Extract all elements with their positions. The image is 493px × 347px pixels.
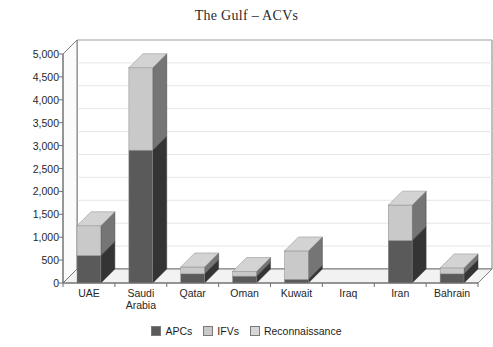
- y-axis-tick-label: 3,500: [0, 117, 59, 129]
- y-axis-tick-label: 2,500: [0, 163, 59, 175]
- x-axis-category-label: Qatar: [167, 288, 219, 300]
- bar-segment: [285, 279, 309, 283]
- bar-segment: [388, 205, 412, 240]
- y-axis-tick-label: 1,000: [0, 231, 59, 243]
- bar-segment: [233, 276, 257, 283]
- bar-group: [77, 212, 115, 283]
- y-axis-tick-label: 2,000: [0, 185, 59, 197]
- bar-segment: [285, 251, 309, 279]
- bar-segment: [440, 274, 464, 283]
- x-axis-category-label: Iran: [374, 288, 426, 300]
- y-axis-tick-label: 4,000: [0, 94, 59, 106]
- left-wall: [63, 40, 77, 283]
- chart-container: The Gulf – ACVs 5,0004,5004,0003,5003,00…: [0, 0, 493, 347]
- bar-side: [153, 136, 167, 283]
- y-axis-tick-label: 3,000: [0, 140, 59, 152]
- legend-item[interactable]: APCs: [151, 325, 192, 337]
- legend-item[interactable]: Reconnaissance: [250, 325, 342, 337]
- x-axis-category-label: Iraq: [322, 288, 374, 300]
- x-axis-category-label: Oman: [219, 288, 271, 300]
- legend-label: APCs: [165, 325, 192, 337]
- bar-segment: [77, 256, 101, 283]
- chart-legend: APCsIFVsReconnaissance: [0, 325, 493, 337]
- x-axis-category-label: Kuwait: [271, 288, 323, 300]
- legend-label: IFVs: [217, 325, 239, 337]
- y-axis-tick-label: 1,500: [0, 208, 59, 220]
- legend-swatch-icon: [250, 326, 260, 336]
- y-axis-tick-label: 500: [0, 254, 59, 266]
- bar-side: [153, 54, 167, 150]
- x-axis-category-label: Bahrain: [426, 288, 478, 300]
- x-axis-category-label: UAE: [63, 288, 115, 300]
- y-axis-tick-label: 0: [0, 277, 59, 289]
- y-axis-tick-label: 5,000: [0, 48, 59, 60]
- bar-segment: [440, 268, 464, 274]
- floor: [63, 269, 492, 283]
- legend-swatch-icon: [203, 326, 213, 336]
- bar-segment: [388, 240, 412, 283]
- legend-swatch-icon: [151, 326, 161, 336]
- bar-segment: [129, 150, 153, 283]
- bar-segment: [233, 272, 257, 277]
- bar-segment: [181, 267, 205, 274]
- bar-group: [129, 54, 167, 283]
- y-axis-tick-label: 4,500: [0, 71, 59, 83]
- bar-group: [388, 191, 426, 283]
- x-axis-category-label: Saudi Arabia: [115, 288, 167, 311]
- bar-segment: [129, 68, 153, 150]
- legend-item[interactable]: IFVs: [203, 325, 239, 337]
- legend-label: Reconnaissance: [264, 325, 342, 337]
- bar-segment: [181, 274, 205, 283]
- bar-segment: [77, 226, 101, 256]
